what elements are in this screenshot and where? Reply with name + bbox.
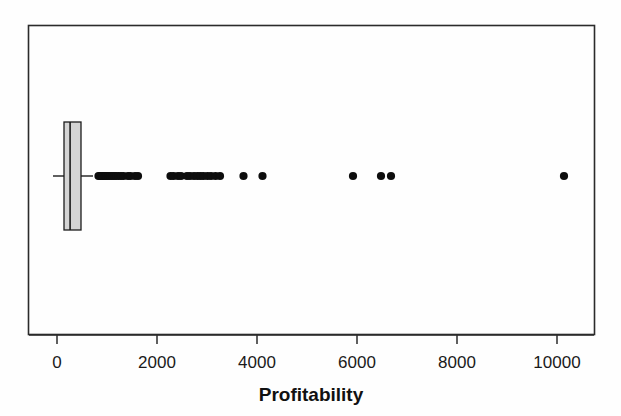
outlier-points [94, 172, 568, 180]
x-tick-label-6000: 6000 [338, 353, 376, 372]
x-tick-label-0: 0 [52, 353, 61, 372]
x-tick-label-10000: 10000 [533, 353, 580, 372]
outlier-point [349, 172, 357, 180]
x-axis-title: Profitability [259, 384, 364, 405]
outlier-point [560, 172, 568, 180]
x-tick-label-2000: 2000 [138, 353, 176, 372]
outlier-point [134, 172, 142, 180]
boxplot-series [53, 122, 93, 230]
x-tick-label-8000: 8000 [438, 353, 476, 372]
x-tick-label-4000: 4000 [238, 353, 276, 372]
outlier-point [216, 172, 224, 180]
iqr-box [64, 122, 81, 230]
boxplot-figure: 0 2000 4000 6000 8000 10000 Profitabilit… [0, 0, 621, 416]
outlier-point [377, 172, 385, 180]
boxplot-canvas: 0 2000 4000 6000 8000 10000 Profitabilit… [0, 0, 621, 416]
outlier-point [387, 172, 395, 180]
outlier-point [239, 172, 247, 180]
outlier-point [258, 172, 266, 180]
x-axis [29, 335, 594, 344]
